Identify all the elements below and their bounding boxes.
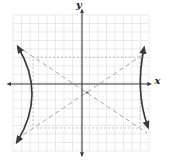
center-point [85,91,88,94]
hyperbola-figure: y x [0,0,170,167]
hyperbola-right-branch [140,48,148,127]
graph-render-root [8,10,151,156]
grid [13,15,149,151]
x-axis-label: x [154,75,162,86]
y-axis-label: y [75,0,83,10]
hyperbola-graph: y x [0,0,170,167]
